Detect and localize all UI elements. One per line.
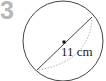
- circle-diagram: 11 cm: [0, 0, 106, 81]
- diameter-label: 11 cm: [61, 44, 93, 59]
